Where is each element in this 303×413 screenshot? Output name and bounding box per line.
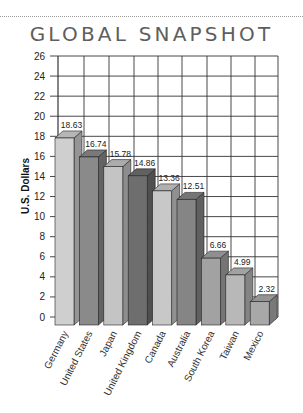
y-tick-label: 12 bbox=[34, 191, 46, 202]
bar-value-label: 16.74 bbox=[85, 139, 107, 149]
bar-value-label: 13.36 bbox=[158, 173, 180, 183]
bar-value-label: 12.51 bbox=[183, 181, 205, 191]
bar-value-label: 6.66 bbox=[210, 240, 227, 250]
y-tick-label: 0 bbox=[39, 312, 45, 323]
y-axis: 02468101214161820222426 bbox=[34, 51, 46, 323]
bars: 18.6316.7415.7814.8613.3612.516.664.992.… bbox=[55, 120, 277, 325]
y-tick-label: 14 bbox=[34, 171, 46, 182]
bar-mexico: 2.32 bbox=[250, 284, 277, 325]
bar-value-label: 14.86 bbox=[134, 158, 156, 168]
bar-value-label: 18.63 bbox=[61, 120, 83, 130]
bar-united-states: 16.74 bbox=[79, 139, 106, 325]
y-tick-label: 18 bbox=[34, 131, 46, 142]
y-tick-label: 10 bbox=[34, 211, 46, 222]
x-category-label: Japan bbox=[97, 329, 119, 358]
y-axis-label: U.S. Dollars bbox=[20, 158, 31, 215]
bar-value-label: 15.78 bbox=[110, 149, 132, 159]
y-tick-label: 20 bbox=[34, 111, 46, 122]
x-axis-labels: GermanyUnited StatesJapanUnited KingdomC… bbox=[42, 329, 266, 398]
bar-japan: 15.78 bbox=[104, 149, 131, 325]
bar-south-korea: 6.66 bbox=[201, 240, 228, 325]
bar-value-label: 2.32 bbox=[258, 284, 275, 294]
bar-canada: 13.36 bbox=[153, 173, 180, 325]
bar-united-kingdom: 14.86 bbox=[128, 158, 155, 325]
bar-value-label: 4.99 bbox=[234, 257, 251, 267]
y-tick-label: 26 bbox=[34, 51, 46, 62]
y-tick-label: 8 bbox=[39, 231, 45, 242]
x-category-label: Mexico bbox=[241, 329, 265, 363]
bar-germany: 18.63 bbox=[55, 120, 82, 325]
y-tick-label: 24 bbox=[34, 71, 46, 82]
y-tick-label: 4 bbox=[39, 271, 45, 282]
x-category-label: Canada bbox=[142, 329, 168, 366]
y-tick-label: 16 bbox=[34, 151, 46, 162]
bar-australia: 12.51 bbox=[177, 181, 204, 325]
x-category-label: Australia bbox=[165, 329, 193, 369]
y-tick-label: 2 bbox=[39, 291, 45, 302]
bar-taiwan: 4.99 bbox=[226, 257, 253, 325]
y-tick-label: 6 bbox=[39, 251, 45, 262]
x-category-label: Taiwan bbox=[217, 329, 241, 362]
bar-chart: 02468101214161820222426 U.S. Dollars 18.… bbox=[0, 0, 303, 413]
y-tick-label: 22 bbox=[34, 91, 46, 102]
